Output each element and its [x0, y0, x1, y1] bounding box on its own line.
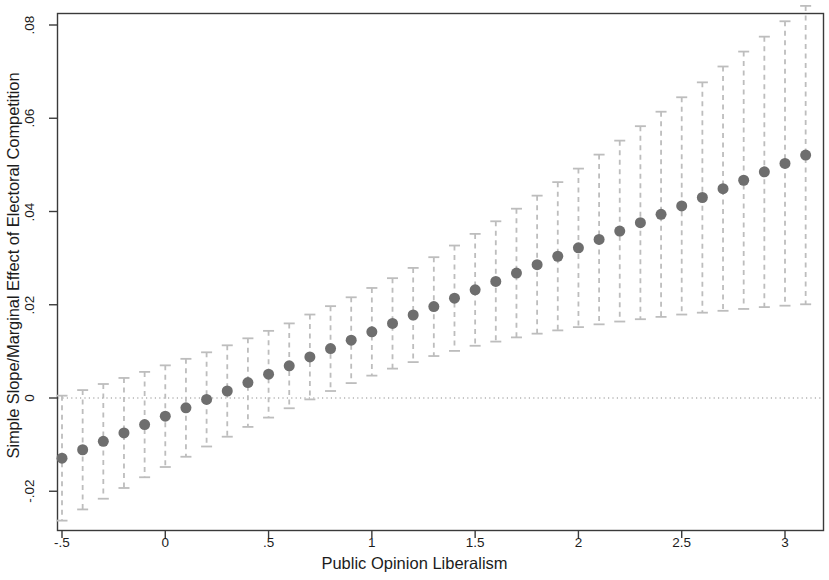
marginal-effect-chart: Simple Slope/Marginal Effect of Electora…: [0, 0, 829, 580]
x-axis-tick-label: -.5: [42, 535, 82, 550]
data-point-marker: [780, 158, 791, 169]
data-points: [57, 150, 812, 464]
y-axis-tick-label: .06: [13, 111, 47, 125]
data-point-marker: [573, 242, 584, 253]
plot-frame: [58, 14, 824, 531]
data-point-marker: [470, 284, 481, 295]
data-point-marker: [718, 183, 729, 194]
data-point-marker: [490, 276, 501, 287]
y-axis-tick-label: .08: [13, 18, 47, 32]
data-point-marker: [635, 217, 646, 228]
data-point-marker: [304, 351, 315, 362]
data-point-marker: [697, 192, 708, 203]
x-axis-title: Public Opinion Liberalism: [0, 554, 829, 573]
data-point-marker: [387, 318, 398, 329]
error-bars: [57, 6, 812, 521]
data-point-marker: [180, 402, 191, 413]
data-point-marker: [800, 150, 811, 161]
x-axis-tick-label: 1: [352, 535, 392, 550]
x-axis-tick-label: 1.5: [455, 535, 495, 550]
data-point-marker: [449, 293, 460, 304]
data-point-marker: [201, 394, 212, 405]
data-point-marker: [346, 335, 357, 346]
data-point-marker: [656, 209, 667, 220]
data-point-marker: [594, 234, 605, 245]
data-point-marker: [222, 386, 233, 397]
x-axis-tick-label: .5: [249, 535, 289, 550]
data-point-marker: [284, 360, 295, 371]
y-axis-tick-label: .02: [13, 298, 47, 312]
plot-area: [0, 0, 829, 580]
data-point-marker: [118, 427, 129, 438]
data-point-marker: [263, 369, 274, 380]
data-point-marker: [57, 453, 68, 464]
y-axis-tick-label: .04: [13, 205, 47, 219]
data-point-marker: [614, 226, 625, 237]
data-point-marker: [532, 259, 543, 270]
data-point-marker: [77, 444, 88, 455]
data-point-marker: [160, 411, 171, 422]
y-axis-tick-label: -.02: [13, 484, 47, 498]
data-point-marker: [242, 377, 253, 388]
x-axis-tick-label: 2: [558, 535, 598, 550]
y-axis-tick-label: 0: [13, 391, 47, 405]
data-point-marker: [408, 310, 419, 321]
data-point-marker: [325, 343, 336, 354]
x-axis-title-text: Public Opinion Liberalism: [321, 554, 507, 572]
data-point-marker: [511, 268, 522, 279]
y-axis-ticks: [49, 25, 57, 491]
data-point-marker: [139, 419, 150, 430]
data-point-marker: [98, 436, 109, 447]
data-point-marker: [738, 175, 749, 186]
data-point-marker: [552, 251, 563, 262]
data-point-marker: [676, 200, 687, 211]
data-point-marker: [759, 166, 770, 177]
x-axis-tick-label: 0: [145, 535, 185, 550]
x-axis-tick-label: 3: [765, 535, 805, 550]
x-axis-tick-label: 2.5: [662, 535, 702, 550]
data-point-marker: [366, 326, 377, 337]
data-point-marker: [428, 301, 439, 312]
